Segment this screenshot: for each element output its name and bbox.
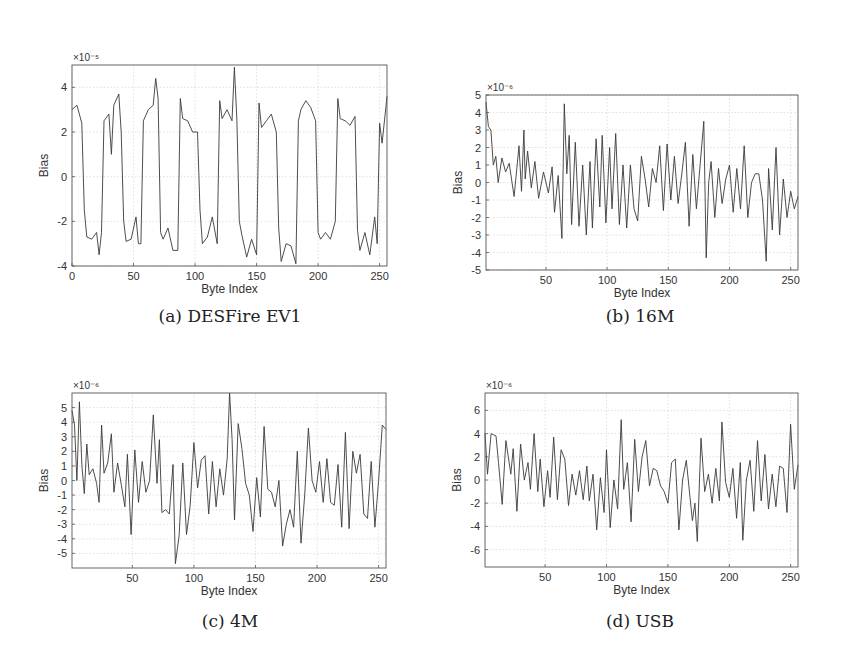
svg-text:200: 200 (720, 571, 738, 583)
svg-text:250: 250 (781, 571, 799, 583)
svg-text:Byte Index: Byte Index (613, 583, 670, 597)
svg-text:50: 50 (539, 571, 551, 583)
svg-text:-6: -6 (470, 544, 480, 556)
data-series (485, 420, 798, 542)
svg-text:-2: -2 (470, 497, 480, 509)
svg-text:0: 0 (474, 474, 480, 486)
svg-text:2: 2 (474, 451, 480, 463)
svg-text:100: 100 (597, 571, 615, 583)
svg-text:4: 4 (474, 428, 480, 440)
svg-text:150: 150 (659, 571, 677, 583)
caption-b: (b) 16M (606, 306, 675, 326)
svg-text:-4: -4 (470, 520, 480, 532)
caption-d: (d) USB (606, 611, 674, 631)
svg-text:Bias: Bias (450, 468, 464, 491)
svg-text:6: 6 (474, 404, 480, 416)
svg-text:×10⁻⁶: ×10⁻⁶ (486, 380, 512, 391)
caption-c: (c) 4M (202, 611, 258, 631)
line-chart-usb: 50100150200250-6-4-20246Byte IndexBias×1… (0, 0, 842, 670)
caption-a: (a) DESFire EV1 (159, 306, 302, 326)
